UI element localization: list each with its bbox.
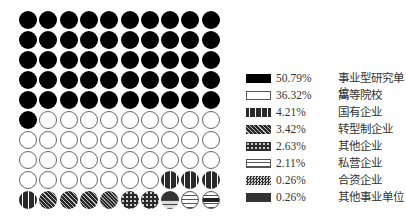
legend-swatch-empty — [246, 91, 271, 100]
waffle-cell-wave-brick — [161, 191, 179, 209]
waffle-cell-solid — [80, 91, 98, 109]
waffle-cell-solid — [161, 51, 179, 69]
waffle-cell-solid — [141, 91, 159, 109]
legend-label: 国有企业 — [338, 105, 382, 120]
waffle-cell-solid — [181, 11, 199, 29]
waffle-cell-solid — [80, 31, 98, 49]
waffle-cell-solid — [161, 31, 179, 49]
waffle-cell-solid — [100, 91, 118, 109]
waffle-cell-empty — [39, 111, 57, 129]
waffle-cell-solid — [161, 11, 179, 29]
waffle-cell-empty — [141, 171, 159, 189]
waffle-cell-solid — [39, 11, 57, 29]
waffle-cell-solid — [141, 71, 159, 89]
waffle-cell-solid — [181, 51, 199, 69]
waffle-cell-solid — [202, 71, 220, 89]
waffle-cell-solid — [19, 51, 37, 69]
waffle-cell-empty — [39, 171, 57, 189]
legend-item: 0.26%合资企业 — [246, 173, 406, 188]
waffle-cell-solid — [19, 91, 37, 109]
waffle-cell-empty — [181, 131, 199, 149]
waffle-cell-solid — [100, 51, 118, 69]
waffle-cell-empty — [121, 151, 139, 169]
legend-swatch-brick — [246, 159, 271, 168]
waffle-cell-empty — [141, 151, 159, 169]
waffle-cell-empty — [181, 151, 199, 169]
legend-label: 私营企业 — [338, 156, 382, 171]
waffle-cell-empty — [202, 131, 220, 149]
waffle-cell-solid — [181, 71, 199, 89]
waffle-cell-empty — [100, 111, 118, 129]
legend-label: 转型制企业 — [338, 122, 393, 137]
waffle-cell-empty — [39, 151, 57, 169]
waffle-cell-solid — [100, 31, 118, 49]
waffle-cell-solid — [60, 91, 78, 109]
waffle-cell-solid — [60, 11, 78, 29]
legend-label: 合资企业 — [338, 173, 382, 188]
legend-item: 3.42%转型制企业 — [246, 122, 406, 137]
legend-percent: 2.63% — [276, 139, 306, 154]
waffle-cell-solid — [60, 51, 78, 69]
legend-percent: 36.32% — [276, 88, 311, 103]
waffle-cell-solid — [19, 31, 37, 49]
waffle-cell-solid — [60, 31, 78, 49]
waffle-cell-solid — [39, 31, 57, 49]
waffle-cell-solid — [100, 11, 118, 29]
legend-percent: 4.21% — [276, 105, 306, 120]
waffle-cell-solid — [19, 11, 37, 29]
legend-swatch-solid — [246, 74, 271, 83]
waffle-cell-solid — [161, 71, 179, 89]
waffle-cell-solid — [141, 51, 159, 69]
legend-item: 50.79%事业型研究单位 — [246, 71, 406, 86]
waffle-cell-empty — [19, 171, 37, 189]
legend-percent: 3.42% — [276, 122, 306, 137]
waffle-cell-empty — [60, 171, 78, 189]
legend-item: 0.26%其他事业单位 — [246, 190, 406, 205]
legend-item: 2.63%其他企业 — [246, 139, 406, 154]
waffle-cell-solid — [141, 11, 159, 29]
waffle-cell-empty — [60, 111, 78, 129]
waffle-cell-solid — [80, 71, 98, 89]
waffle-cell-solid — [19, 71, 37, 89]
waffle-cell-brick — [181, 191, 199, 209]
legend-swatch-checker — [246, 176, 271, 185]
waffle-cell-solid — [121, 51, 139, 69]
waffle-cell-empty — [19, 131, 37, 149]
waffle-cell-empty — [80, 151, 98, 169]
waffle-cell-vertical — [161, 171, 179, 189]
waffle-cell-solid — [121, 31, 139, 49]
legend-percent: 0.26% — [276, 190, 306, 205]
waffle-cell-solid — [202, 91, 220, 109]
waffle-cell-diagonal-dense — [100, 191, 118, 209]
waffle-cell-empty — [60, 151, 78, 169]
waffle-cell-empty — [100, 151, 118, 169]
waffle-cell-empty — [161, 111, 179, 129]
waffle-cell-empty — [39, 131, 57, 149]
waffle-cell-empty — [161, 131, 179, 149]
waffle-cell-empty — [19, 151, 37, 169]
waffle-cell-solid — [181, 31, 199, 49]
waffle-cell-diagonal — [39, 191, 57, 209]
waffle-cell-solid — [202, 31, 220, 49]
legend-swatch-wave — [246, 142, 271, 151]
legend-swatch-bar — [246, 193, 271, 202]
waffle-cell-wave — [121, 191, 139, 209]
waffle-cell-empty — [100, 171, 118, 189]
waffle-cell-brick-bar — [202, 191, 220, 209]
legend-item: 36.32%高等院校 — [246, 88, 406, 103]
waffle-cell-vertical — [19, 191, 37, 209]
waffle-cell-solid — [121, 91, 139, 109]
waffle-cell-solid — [19, 111, 37, 129]
legend-swatch-vertical — [246, 108, 271, 117]
waffle-cell-solid — [181, 91, 199, 109]
waffle-cell-empty — [181, 111, 199, 129]
legend-item: 4.21%国有企业 — [246, 105, 406, 120]
waffle-cell-solid — [121, 11, 139, 29]
legend-percent: 0.26% — [276, 173, 306, 188]
waffle-grid — [19, 11, 224, 213]
waffle-cell-empty — [100, 131, 118, 149]
waffle-cell-solid — [141, 31, 159, 49]
waffle-cell-diagonal — [60, 191, 78, 209]
legend-swatch-diagonal — [246, 125, 271, 134]
waffle-cell-empty — [121, 131, 139, 149]
